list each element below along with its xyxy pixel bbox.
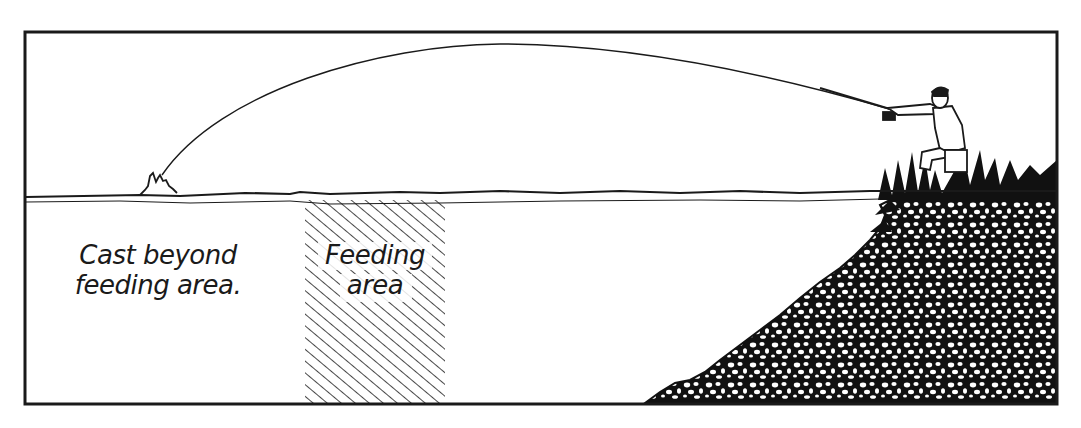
fishing-diagram [0,0,1081,428]
bank-slope [645,194,1057,403]
feeding-area-label-line2: area [305,270,445,300]
cast-beyond-label: Cast beyond feeding area. [58,240,258,300]
feeding-area-label-line1: Feeding [305,240,445,270]
angler-figure [883,87,967,172]
cast-beyond-label-line1: Cast beyond [58,240,258,270]
cast-line-arc [162,44,893,175]
splash-icon [140,173,177,195]
cast-beyond-label-line2: feeding area. [58,270,258,300]
feeding-area-hatch [305,200,445,403]
feeding-area-label: Feeding area [305,240,445,300]
